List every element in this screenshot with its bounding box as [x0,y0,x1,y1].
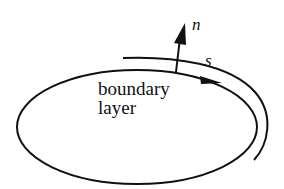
layer-label: layer [98,97,137,118]
boundary-layer-edge-curve [123,58,267,160]
normal-arrow-icon [174,23,186,45]
tangent-axis-label: s [205,51,212,70]
boundary-layer-diagram: n s boundary layer [0,0,284,189]
boundary-label: boundary [98,78,170,99]
tangent-arrow-icon [200,76,222,84]
diagram-canvas: n s boundary layer [0,0,284,189]
normal-axis-label: n [192,15,201,34]
